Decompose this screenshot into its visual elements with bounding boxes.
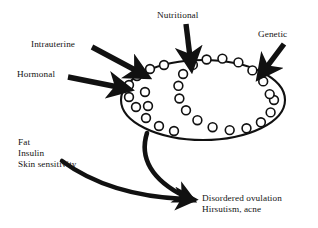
follicle	[189, 61, 198, 70]
output-arrows	[62, 133, 184, 199]
input-arrows	[68, 24, 284, 87]
follicle	[175, 94, 184, 103]
label-hormonal: Hormonal	[17, 69, 55, 80]
follicle	[208, 123, 217, 132]
label-genetic: Genetic	[258, 29, 287, 40]
label-outcome: Disordered ovulation Hirsutism, acne	[202, 193, 282, 215]
follicle	[155, 122, 164, 131]
follicle	[265, 90, 274, 99]
follicle	[182, 106, 191, 115]
follicle	[132, 103, 141, 112]
follicle	[234, 58, 243, 67]
follicle	[266, 108, 275, 117]
follicle	[142, 114, 151, 123]
follicle	[193, 116, 202, 125]
follicle	[125, 81, 134, 90]
follicle	[248, 66, 257, 75]
follicle	[242, 124, 251, 133]
follicle	[125, 93, 134, 102]
diagram-canvas: Intrauterine Hormonal Nutritional Geneti…	[0, 0, 318, 228]
arrow-metabolic-to-outcome	[62, 161, 184, 199]
arrow-hormonal	[68, 77, 118, 87]
ovary-outline	[121, 60, 285, 140]
follicle	[179, 70, 188, 79]
follicle	[170, 127, 179, 136]
follicle	[160, 61, 169, 70]
polycystic-ovary-group	[121, 54, 285, 140]
label-nutritional: Nutritional	[157, 10, 198, 21]
follicle	[202, 55, 211, 64]
follicle	[146, 65, 155, 74]
follicle	[218, 54, 227, 63]
label-intrauterine: Intrauterine	[31, 39, 75, 50]
follicle	[144, 102, 153, 111]
follicle	[141, 88, 150, 97]
follicle	[257, 118, 266, 127]
follicle	[259, 77, 268, 86]
follicle	[133, 72, 142, 81]
arrow-intrauterine	[92, 47, 137, 71]
follicle	[174, 81, 183, 90]
follicle-ring-left	[125, 61, 179, 136]
follicle	[225, 126, 234, 135]
label-metabolic-factors: Fat Insulin Skin sensitivity	[18, 137, 77, 169]
arrow-genetic	[266, 44, 284, 68]
arrow-nutritional	[186, 24, 190, 57]
arrow-ovary-to-outcome	[145, 133, 184, 196]
